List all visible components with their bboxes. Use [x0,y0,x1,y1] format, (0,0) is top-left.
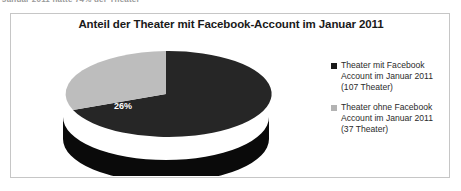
chart-container: Anteil der Theater mit Facebook-Account … [10,13,450,178]
legend-item-theater-mit-facebook[interactable]: Theater mit Facebook Account im Januar 2… [331,60,457,93]
legend-item-theater-ohne-facebook[interactable]: Theater ohne Facebook Account im Januar … [331,102,457,135]
chart-title: Anteil der Theater mit Facebook-Account … [11,18,451,30]
pie-chart-plot-area: 26% 74% [11,36,311,176]
legend-swatch-light [331,105,337,111]
chart-legend: Theater mit Facebook Account im Januar 2… [331,60,457,144]
legend-label-theater-ohne-facebook: Theater ohne Facebook Account im Januar … [341,102,433,135]
pie-label-light-slice: 26% [114,101,132,111]
legend-label-theater-mit-facebook: Theater mit Facebook Account im Januar 2… [341,60,433,93]
pie-chart-svg: 26% 74% [11,36,311,176]
pie-label-dark-slice: 74% [171,135,189,145]
page-top-text-strip: Januar 2011 hatte 74% der Theater [0,0,461,9]
legend-swatch-dark [331,63,337,69]
page-top-text: Januar 2011 hatte 74% der Theater [2,0,140,4]
